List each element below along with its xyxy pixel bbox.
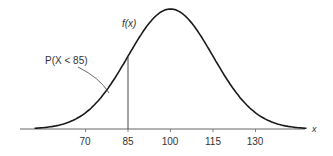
tick-label: 70	[79, 136, 90, 147]
fx-label: f(x)	[122, 18, 136, 29]
probability-label: P(X < 85)	[45, 55, 88, 66]
tick-label: 100	[162, 136, 179, 147]
normal-distribution-chart	[0, 0, 333, 156]
density-curve	[35, 9, 307, 128]
tick-label: 130	[247, 136, 264, 147]
probability-pointer	[78, 67, 109, 93]
tick-label: 85	[122, 136, 133, 147]
x-axis-label: x	[312, 124, 317, 134]
tick-label: 115	[205, 136, 221, 147]
